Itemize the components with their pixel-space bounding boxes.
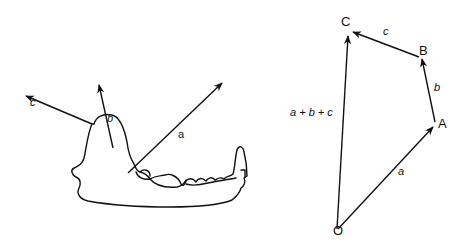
point-label-a: A (438, 117, 447, 130)
jaw-bone-drawing (72, 114, 247, 207)
polygon-vector-a-arrow (338, 127, 433, 229)
edge-label-b: b (434, 82, 440, 93)
vector-diagram (0, 0, 466, 244)
point-label-o: O (333, 224, 343, 237)
jaw-label-c: c (30, 97, 36, 108)
point-label-c: C (341, 15, 350, 28)
vector-a-arrow (128, 83, 222, 173)
edge-label-sum: a + b + c (290, 107, 333, 118)
jaw-label-b: b (107, 113, 113, 124)
point-label-b: B (419, 44, 428, 57)
edge-label-a: a (398, 166, 404, 177)
edge-label-c: c (383, 26, 389, 37)
jaw-label-a: a (178, 129, 184, 140)
polygon-vector-sum-arrow (337, 36, 348, 229)
